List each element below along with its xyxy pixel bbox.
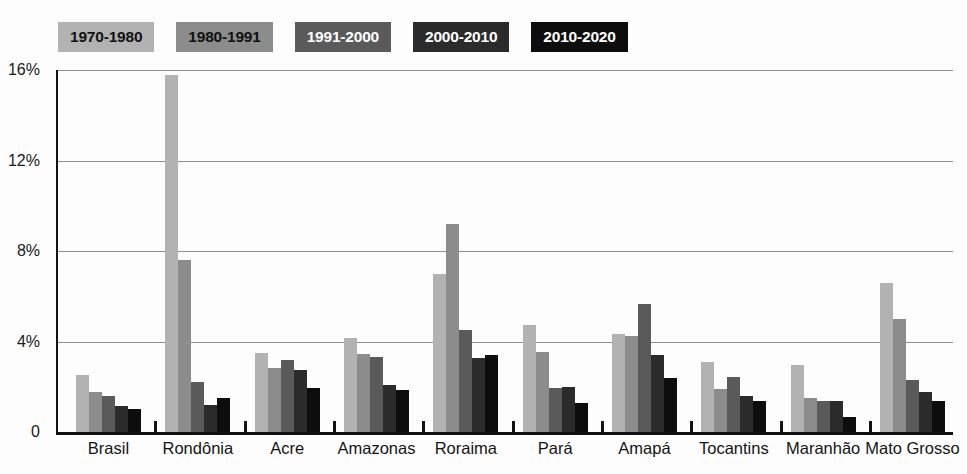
bar[interactable] — [893, 319, 906, 432]
bar[interactable] — [472, 358, 485, 432]
bar[interactable] — [204, 405, 217, 432]
bar[interactable] — [76, 375, 89, 432]
legend-item-4[interactable]: 2000-2010 — [413, 22, 509, 52]
bar[interactable] — [102, 396, 115, 432]
category-label: Tocantins — [699, 440, 769, 457]
legend-label: 1980-1991 — [188, 29, 260, 45]
x-axis-tick — [422, 421, 425, 433]
bar-groups — [58, 70, 953, 432]
bar-group — [76, 70, 141, 432]
legend-item-1[interactable]: 1970-1980 — [58, 22, 154, 52]
bar[interactable] — [701, 362, 714, 432]
y-axis-tick-labels: 04%8%12%16% — [0, 70, 50, 432]
category-label: Maranhão — [786, 440, 860, 457]
bar-group — [791, 70, 856, 432]
x-axis-tick — [244, 421, 247, 433]
bar[interactable] — [383, 385, 396, 433]
bar[interactable] — [817, 401, 830, 432]
x-axis-tick — [869, 421, 872, 433]
bar[interactable] — [638, 304, 651, 432]
bar[interactable] — [753, 401, 766, 432]
bar[interactable] — [612, 334, 625, 432]
legend-item-2[interactable]: 1980-1991 — [176, 22, 272, 52]
bar[interactable] — [625, 336, 638, 432]
bar[interactable] — [664, 378, 677, 432]
bar[interactable] — [294, 370, 307, 432]
bar[interactable] — [396, 390, 409, 432]
category-label: Acre — [270, 440, 304, 457]
bar[interactable] — [804, 398, 817, 432]
bar[interactable] — [843, 417, 856, 432]
bar[interactable] — [89, 392, 102, 432]
x-axis-tick — [512, 421, 515, 433]
y-tick-label: 12% — [8, 153, 40, 169]
bar-group — [344, 70, 409, 432]
category-label: Rondônia — [163, 440, 234, 457]
bar-group — [612, 70, 677, 432]
bar[interactable] — [536, 352, 549, 432]
bar[interactable] — [919, 392, 932, 432]
category-label: Amapá — [618, 440, 670, 457]
category-label: Mato Grosso — [865, 440, 959, 457]
bar[interactable] — [217, 398, 230, 432]
y-tick-label: 8% — [17, 243, 40, 259]
bar-group — [165, 70, 230, 432]
bar[interactable] — [714, 389, 727, 432]
bar[interactable] — [575, 403, 588, 432]
x-axis-line — [56, 432, 953, 435]
bar[interactable] — [549, 388, 562, 432]
bar-group — [701, 70, 766, 432]
bar[interactable] — [651, 355, 664, 432]
category-label: Brasil — [88, 440, 129, 457]
legend-label: 2000-2010 — [425, 29, 497, 45]
bar[interactable] — [307, 388, 320, 432]
category-label: Roraima — [435, 440, 497, 457]
x-axis-category-labels: BrasilRondôniaAcreAmazonasRoraimaParáAma… — [58, 440, 953, 466]
bar[interactable] — [562, 387, 575, 432]
bar[interactable] — [281, 360, 294, 432]
bar[interactable] — [446, 224, 459, 432]
x-axis-tick — [333, 421, 336, 433]
bar[interactable] — [906, 380, 919, 432]
bar[interactable] — [178, 260, 191, 432]
x-axis-tick — [780, 421, 783, 433]
bar[interactable] — [433, 274, 446, 432]
x-axis-tick — [601, 421, 604, 433]
category-label: Amazonas — [338, 440, 416, 457]
bar-chart: 1970-19801980-19911991-20002000-20102010… — [0, 0, 967, 474]
bar[interactable] — [115, 406, 128, 432]
x-axis-tick — [154, 421, 157, 433]
bar[interactable] — [523, 325, 536, 432]
bar[interactable] — [830, 401, 843, 432]
bar[interactable] — [191, 382, 204, 432]
bar-group — [880, 70, 945, 432]
category-label: Pará — [538, 440, 573, 457]
legend-label: 2010-2020 — [543, 29, 615, 45]
y-tick-label: 4% — [17, 334, 40, 350]
bar[interactable] — [932, 401, 945, 432]
bar[interactable] — [791, 365, 804, 432]
bar[interactable] — [370, 357, 383, 432]
x-axis-tick — [690, 421, 693, 433]
legend-item-3[interactable]: 1991-2000 — [295, 22, 391, 52]
bar[interactable] — [268, 368, 281, 432]
bar[interactable] — [357, 354, 370, 432]
bar[interactable] — [485, 355, 498, 432]
bar[interactable] — [128, 409, 141, 432]
bar-group — [255, 70, 320, 432]
legend-item-5[interactable]: 2010-2020 — [531, 22, 627, 52]
bar[interactable] — [255, 353, 268, 432]
bar[interactable] — [880, 283, 893, 432]
bar-group — [523, 70, 588, 432]
plot-area — [58, 70, 953, 432]
legend-label: 1970-1980 — [70, 29, 142, 45]
bar[interactable] — [727, 377, 740, 432]
legend-label: 1991-2000 — [307, 29, 379, 45]
bar[interactable] — [459, 330, 472, 432]
y-tick-label: 16% — [8, 62, 40, 78]
bar[interactable] — [740, 396, 753, 432]
y-tick-label: 0 — [31, 424, 40, 440]
bar[interactable] — [165, 75, 178, 432]
bar[interactable] — [344, 338, 357, 432]
bar-group — [433, 70, 498, 432]
